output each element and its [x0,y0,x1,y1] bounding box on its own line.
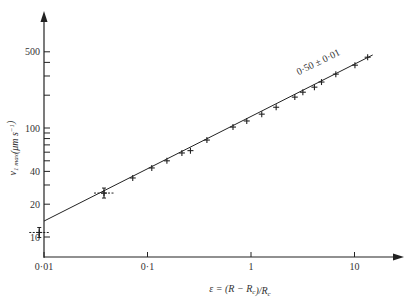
x-tick-label: 0·01 [35,261,53,272]
data-points [29,54,370,237]
y-tick-label: 20 [30,199,40,210]
y-axis-arrow-icon [41,11,48,22]
slope-annotation: 0·50 ± 0·01 [294,46,341,77]
x-tick-label: 10 [350,261,360,272]
x-tick-label: 1 [249,261,254,272]
data-point [244,118,250,124]
error-bar [94,188,114,198]
x-axis-arrow-icon [393,254,404,261]
data-point [300,89,306,95]
data-point [130,175,136,181]
y-tick-label: 40 [30,166,40,177]
x-tick-label: 0·1 [141,261,154,272]
fit-line [44,55,373,221]
y-tick-label: 100 [25,123,40,134]
data-point [164,158,170,164]
log-log-chart: 0·010·1110102040100500 0·50 ± 0·01ε = (R… [0,0,418,297]
axis-labels: 0·50 ± 0·01ε = (R − Rc)/Rcv1 max(μm s−1) [5,46,342,297]
y-tick-label: 500 [25,46,40,57]
x-axis-title: ε = (R − Rc)/Rc [209,283,271,297]
data-point [365,54,371,60]
y-axis-title: v1 max(μm s−1) [5,120,21,176]
fit-line-path [44,55,373,221]
axes: 0·010·1110102040100500 [25,11,404,272]
data-point [179,150,185,156]
